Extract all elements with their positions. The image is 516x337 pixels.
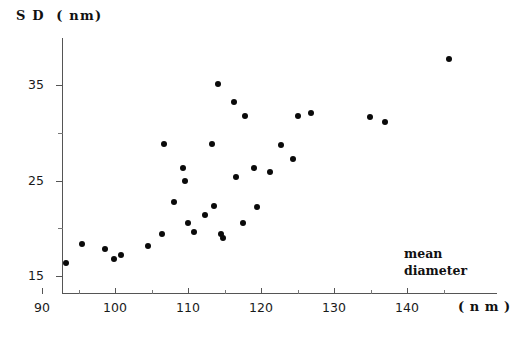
data-point — [209, 141, 215, 147]
data-point — [161, 141, 167, 147]
y-axis-tick — [56, 85, 63, 86]
data-point — [367, 114, 373, 120]
data-point — [118, 252, 124, 258]
x-axis-minor-tick — [298, 290, 299, 294]
data-point — [295, 113, 301, 119]
data-point — [267, 169, 273, 175]
mean-diameter-annotation: mean diameter — [404, 245, 467, 279]
data-point — [202, 212, 208, 218]
x-axis-tick — [261, 288, 262, 294]
plot-area — [0, 0, 516, 337]
x-axis-tick — [115, 288, 116, 294]
y-axis-minor-tick — [58, 133, 63, 134]
data-point — [63, 260, 69, 266]
x-axis-tick — [188, 288, 189, 294]
data-point — [251, 165, 257, 171]
x-axis-tick — [407, 288, 408, 294]
data-point — [171, 199, 177, 205]
data-point — [242, 113, 248, 119]
data-point — [382, 119, 388, 125]
x-axis-unit-label: ( n m ) — [458, 299, 511, 314]
x-axis-minor-tick — [444, 290, 445, 294]
y-axis-tick-label: 25 — [10, 173, 44, 188]
x-axis-tick-label: 100 — [95, 300, 135, 315]
data-point — [145, 243, 151, 249]
data-point — [446, 56, 452, 62]
data-point — [308, 110, 314, 116]
data-point — [180, 165, 186, 171]
x-axis-tick — [42, 288, 43, 294]
data-point — [182, 178, 188, 184]
x-axis-minor-tick — [79, 290, 80, 294]
annotation-line-1: mean — [404, 245, 467, 262]
data-point — [79, 241, 85, 247]
data-point — [220, 235, 226, 241]
y-axis-tick-label: 15 — [10, 268, 44, 283]
data-point — [254, 204, 260, 210]
data-point — [290, 156, 296, 162]
x-axis-tick — [334, 288, 335, 294]
data-point — [240, 220, 246, 226]
y-axis-minor-tick — [58, 228, 63, 229]
data-point — [185, 220, 191, 226]
data-point — [215, 81, 221, 87]
data-point — [191, 229, 197, 235]
x-axis-tick-label: 120 — [241, 300, 281, 315]
x-axis-tick-label: 130 — [314, 300, 354, 315]
data-point — [111, 256, 117, 262]
x-axis-tick-label: 110 — [168, 300, 208, 315]
x-axis-tick-label: 140 — [387, 300, 427, 315]
data-point — [102, 246, 108, 252]
annotation-line-2: diameter — [404, 262, 467, 279]
y-axis-tick — [56, 276, 63, 277]
x-axis-minor-tick — [152, 290, 153, 294]
y-axis-tick-label: 35 — [10, 77, 44, 92]
data-point — [211, 203, 217, 209]
y-axis-tick — [56, 181, 63, 182]
scatter-plot-figure: S D ( nm) mean diameter ( n m ) 15253590… — [0, 0, 516, 337]
data-point — [233, 174, 239, 180]
data-point — [278, 142, 284, 148]
x-axis-minor-tick — [225, 290, 226, 294]
data-point — [159, 231, 165, 237]
x-axis-minor-tick — [371, 290, 372, 294]
data-point — [231, 99, 237, 105]
x-axis-tick-label: 90 — [22, 300, 62, 315]
